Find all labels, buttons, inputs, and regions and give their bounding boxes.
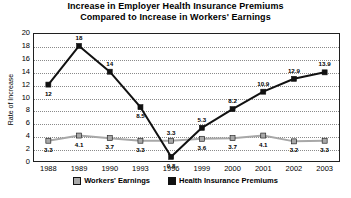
x-axis-tick-label: 1993 — [132, 165, 149, 173]
data-point-marker — [138, 138, 143, 143]
data-label: 3.3 — [44, 147, 53, 153]
data-point-marker — [261, 133, 266, 138]
data-label: 3.7 — [228, 144, 237, 150]
x-axis-tick-label: 2000 — [224, 165, 241, 173]
data-point-marker — [169, 138, 174, 143]
data-point-marker — [230, 107, 235, 112]
data-point-marker — [107, 69, 112, 74]
data-point-marker — [199, 136, 204, 141]
data-point-marker — [46, 82, 51, 87]
chart-container: Increase in Employer Health Insurance Pr… — [0, 0, 351, 198]
data-label: 10.9 — [257, 81, 269, 87]
data-label: 0.8 — [167, 163, 176, 169]
data-point-marker — [107, 136, 112, 141]
data-label: 12 — [45, 90, 52, 96]
data-label: 3.3 — [136, 147, 145, 153]
x-axis-tick-label: 2003 — [316, 165, 333, 173]
data-point-marker — [199, 125, 204, 130]
data-point-marker — [230, 136, 235, 141]
data-label: 8.5 — [136, 113, 145, 119]
x-axis-tick-label: 2002 — [286, 165, 303, 173]
data-point-marker — [261, 89, 266, 94]
x-axis-tick-label: 2001 — [255, 165, 272, 173]
chart-legend: Workers' EarningsHealth Insurance Premiu… — [0, 176, 351, 185]
data-label: 3.3 — [167, 130, 176, 136]
legend-label: Workers' Earnings — [84, 176, 150, 185]
data-label: 3.6 — [198, 145, 207, 151]
data-label: 8.2 — [228, 98, 237, 104]
y-axis-tick-label: 6 — [10, 119, 30, 127]
data-label: 14 — [106, 61, 113, 67]
x-axis-tick-label: 1988 — [40, 165, 57, 173]
legend-swatch-icon — [168, 177, 176, 185]
data-point-marker — [77, 43, 82, 48]
legend-item[interactable]: Workers' Earnings — [73, 176, 150, 185]
data-point-marker — [169, 154, 174, 159]
x-axis-tick-label: 1989 — [71, 165, 88, 173]
data-point-marker — [322, 138, 327, 143]
data-point-marker — [291, 76, 296, 81]
data-label: 3.7 — [105, 144, 114, 150]
legend-label: Health Insurance Premiums — [179, 176, 278, 185]
series-line — [48, 136, 324, 142]
y-axis-tick-label: 20 — [10, 29, 30, 37]
y-axis-tick-label: 2 — [10, 145, 30, 153]
data-label: 3.3 — [320, 147, 329, 153]
y-axis-tick-label: 18 — [10, 42, 30, 50]
data-point-marker — [138, 105, 143, 110]
y-axis-tick-label: 14 — [10, 68, 30, 76]
legend-item[interactable]: Health Insurance Premiums — [168, 176, 278, 185]
legend-swatch-icon — [73, 177, 81, 185]
data-label: 4.1 — [75, 141, 84, 147]
data-label: 4.1 — [259, 141, 268, 147]
data-label: 12.9 — [288, 68, 300, 74]
y-axis-tick-label: 12 — [10, 81, 30, 89]
data-point-marker — [291, 139, 296, 144]
x-axis-tick-label: 1990 — [101, 165, 118, 173]
x-axis-tick-label: 1999 — [194, 165, 211, 173]
y-axis-tick-label: 4 — [10, 132, 30, 140]
y-axis-tick-label: 10 — [10, 94, 30, 102]
chart-title: Increase in Employer Health Insurance Pr… — [0, 1, 351, 23]
data-point-marker — [46, 138, 51, 143]
data-label: 13.9 — [319, 61, 331, 67]
y-axis-tick-label: 16 — [10, 55, 30, 63]
data-point-marker — [77, 133, 82, 138]
y-axis-tick-label: 0 — [10, 158, 30, 166]
data-label: 5.3 — [198, 117, 207, 123]
y-axis-tick-label: 8 — [10, 106, 30, 114]
data-point-marker — [322, 70, 327, 75]
chart-title-line-1: Increase in Employer Health Insurance Pr… — [67, 1, 283, 11]
chart-title-line-2: Compared to Increase in Workers' Earning… — [0, 12, 351, 23]
data-label: 18 — [76, 35, 83, 41]
data-label: 3.2 — [290, 147, 299, 153]
